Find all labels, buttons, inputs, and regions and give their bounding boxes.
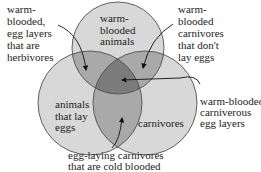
label-carnivores: carnivores [138, 118, 184, 130]
label-animals-that-lay-eggs: animals that lay eggs [55, 99, 89, 134]
callout-warm-carnivores-no-eggs: warm- blooded carnivores that don't lay … [178, 3, 224, 63]
label-warm-blooded-animals: warm- blooded animals [100, 13, 135, 48]
callout-warm-egg-herbivores: warm- blooded, egg layers that are herbi… [7, 3, 53, 63]
callout-warm-carnivorous-egg-layers: warm-blooded carniverous egg layers [200, 96, 261, 129]
callout-egg-laying-cold-carnivores: egg-laying carnivores that are cold bloo… [68, 150, 164, 172]
